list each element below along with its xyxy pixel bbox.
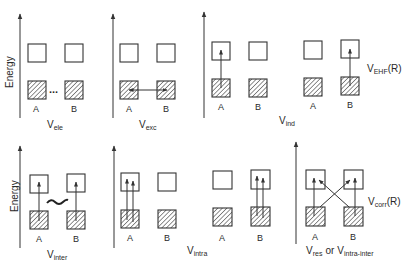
level-empty-a <box>121 173 139 191</box>
level-occupied-a <box>306 207 325 226</box>
panel-label-v-intra: Vintra <box>187 245 207 257</box>
monomer-label-b: B <box>73 234 79 244</box>
monomer-label-a: A <box>310 101 316 111</box>
level-empty-b <box>157 44 175 62</box>
level-empty-b <box>344 170 363 189</box>
monomer-label-b: B <box>71 104 77 114</box>
level-occupied-b <box>251 207 270 226</box>
bottom-row: Energy A B Vinter A B <box>9 142 401 261</box>
monomer-label-a: A <box>127 233 133 243</box>
level-occupied-a <box>304 78 322 96</box>
level-occupied-a <box>28 81 46 99</box>
wavy-coupling-icon <box>47 200 68 204</box>
level-empty-b <box>65 44 83 62</box>
panel-v-inter: A B Vinter <box>20 146 85 261</box>
level-occupied-b <box>344 207 363 226</box>
level-empty-a <box>213 171 232 189</box>
level-empty-b <box>251 170 270 189</box>
level-occupied-a <box>213 208 232 226</box>
dots-connector: ... <box>49 83 58 95</box>
monomer-label-b: B <box>347 100 353 110</box>
level-empty-b <box>249 42 267 60</box>
interaction-energy-diagram: Energy ... A B Vele A B Vexc <box>0 0 412 274</box>
level-empty-a <box>120 44 138 62</box>
monomer-label-a: A <box>218 102 224 112</box>
monomer-label-a: A <box>219 233 225 243</box>
panel-label-v-ind: Vind <box>279 115 295 127</box>
monomer-label-b: B <box>257 233 263 243</box>
panel-label-v-inter: Vinter <box>47 249 68 261</box>
monomer-label-b: B <box>163 104 169 114</box>
group-label-v-corr: Vcorr(R) <box>368 196 401 208</box>
level-occupied-a <box>121 210 139 228</box>
monomer-label-a: A <box>312 232 318 242</box>
group-label-v-ehf: VEHF(R) <box>367 63 402 75</box>
panel-v-ele: ... A B Vele <box>20 14 83 131</box>
level-occupied-b <box>158 210 176 228</box>
panel-v-exc: A B Vexc <box>113 14 175 131</box>
panel-v-ind: A B A B Vind <box>204 12 359 127</box>
panel-label-v-res: VresorVintra-inter <box>306 245 374 257</box>
energy-axis-label-top: Energy <box>4 56 15 88</box>
panel-v-intra: A B A B Vintra <box>114 146 270 257</box>
monomer-label-b: B <box>164 233 170 243</box>
energy-axis-label-bottom: Energy <box>9 180 20 212</box>
level-empty-b <box>158 173 176 191</box>
level-empty-a <box>304 41 322 59</box>
monomer-label-b: B <box>255 102 261 112</box>
top-row: Energy ... A B Vele A B Vexc <box>4 12 402 131</box>
panel-label-v-ele: Vele <box>47 119 63 131</box>
level-occupied-b <box>249 79 267 97</box>
panel-v-res: A B VresorVintra-inter <box>296 142 374 257</box>
level-empty-a <box>28 44 46 62</box>
monomer-label-a: A <box>33 104 39 114</box>
monomer-label-a: A <box>126 104 132 114</box>
level-occupied-b <box>65 81 83 99</box>
panel-label-v-exc: Vexc <box>139 119 157 131</box>
level-empty-a <box>306 170 325 189</box>
monomer-label-b: B <box>350 232 356 242</box>
monomer-label-a: A <box>36 234 42 244</box>
